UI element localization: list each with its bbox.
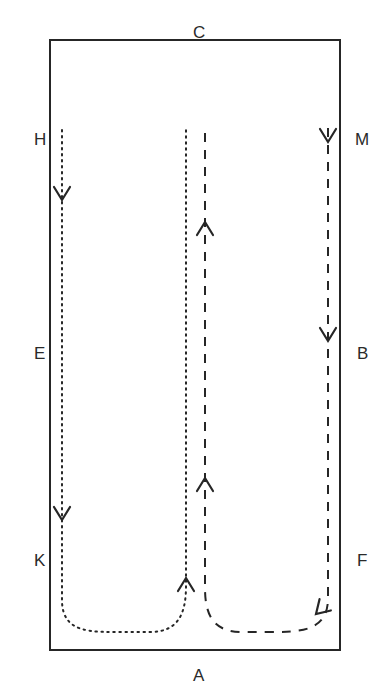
- vertex-label-a: A: [193, 667, 204, 684]
- vertex-label-f: F: [357, 552, 367, 569]
- arrowhead-chevron-icon: [178, 578, 194, 591]
- diagram-canvas: CHMEBKFA: [0, 0, 387, 698]
- dashed-flow-path: [205, 128, 328, 632]
- rectangle-boundary: [50, 40, 340, 650]
- vertex-label-e: E: [34, 345, 45, 362]
- vertex-label-k: K: [34, 552, 45, 569]
- vertex-label-b: B: [357, 345, 368, 362]
- dotted-flow-path: [62, 130, 186, 632]
- vertex-label-m: M: [355, 131, 369, 148]
- arrowhead-layer: [54, 129, 336, 620]
- vertex-label-c: C: [193, 24, 205, 41]
- arrowhead-chevron-icon: [310, 599, 331, 620]
- diagram-svg: [0, 0, 387, 698]
- vertex-label-h: H: [34, 131, 46, 148]
- arrowhead-chevron-icon: [197, 478, 213, 491]
- arrowhead-chevron-icon: [54, 187, 70, 200]
- arrowhead-chevron-icon: [197, 222, 213, 235]
